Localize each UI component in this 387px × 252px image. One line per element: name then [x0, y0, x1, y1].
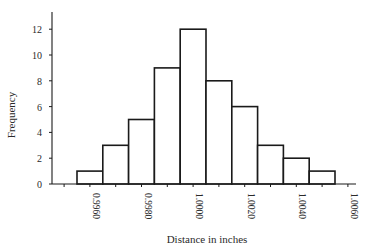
y-tick-label: 4 — [37, 127, 42, 138]
x-tick-label: 1.0000 — [194, 193, 204, 219]
x-tick-label: 0.9960 — [91, 193, 101, 219]
y-tick-label: 10 — [32, 50, 42, 61]
x-tick-label: 1.0060 — [349, 193, 359, 219]
y-tick-label: 6 — [37, 102, 42, 113]
histogram-bar — [232, 107, 258, 184]
y-tick-label: 8 — [37, 76, 42, 87]
y-axis: 024681012 — [32, 12, 52, 190]
histogram-bar — [103, 145, 129, 184]
histogram-bars — [77, 29, 335, 184]
histogram-bar — [180, 29, 206, 184]
y-axis-label: Frequency — [5, 91, 17, 138]
histogram-bar — [77, 171, 103, 184]
histogram-bar — [309, 171, 335, 184]
histogram-bar — [283, 158, 309, 184]
histogram-bar — [129, 120, 155, 185]
x-tick-label: 1.0020 — [246, 193, 256, 219]
y-tick-label: 0 — [37, 179, 42, 190]
histogram-chart: 024681012 0.99600.99801.00001.00201.0040… — [0, 0, 387, 252]
histogram-bar — [258, 145, 284, 184]
x-axis-label: Distance in inches — [167, 233, 248, 245]
x-axis: 0.99600.99801.00001.00201.00401.0060 — [52, 184, 359, 219]
histogram-bar — [206, 81, 232, 184]
y-tick-label: 12 — [32, 24, 42, 35]
histogram-bar — [154, 68, 180, 184]
y-tick-label: 2 — [37, 153, 42, 164]
x-tick-label: 1.0040 — [297, 193, 307, 219]
x-tick-label: 0.9980 — [143, 193, 153, 219]
